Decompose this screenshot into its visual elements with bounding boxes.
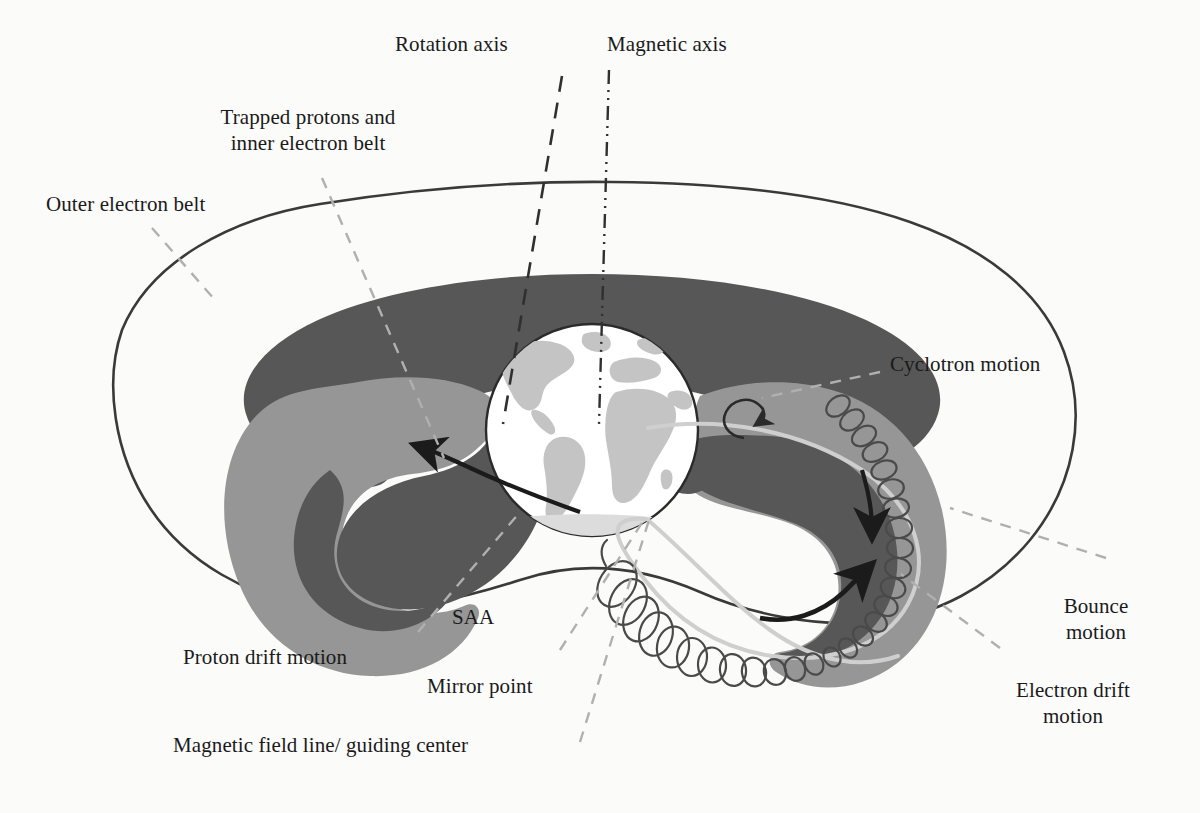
mirror-point-leader	[560, 518, 645, 650]
label-trapped-protons-line2: inner electron belt	[168, 131, 448, 156]
label-proton-drift-motion: Proton drift motion	[183, 645, 347, 670]
label-bounce-motion-line1: Bounce	[1036, 594, 1156, 619]
helix-loop	[676, 637, 707, 676]
helix-tail	[602, 540, 607, 566]
label-cyclotron-motion: Cyclotron motion	[890, 352, 1040, 377]
label-electron-drift-line2: motion	[978, 704, 1168, 729]
label-electron-drift-line1: Electron drift	[978, 678, 1168, 703]
label-bounce-motion-line2: motion	[1036, 620, 1156, 645]
label-mirror-point: Mirror point	[427, 674, 533, 699]
label-rotation-axis: Rotation axis	[395, 32, 508, 57]
radiation-belt-diagram: Rotation axis Magnetic axis Trapped prot…	[0, 0, 1200, 813]
label-saa: SAA	[452, 605, 494, 630]
helix-loop	[718, 652, 748, 687]
label-trapped-protons-line1: Trapped protons and	[168, 105, 448, 130]
label-magnetic-field-line: Magnetic field line/ guiding center	[173, 733, 468, 758]
outer-electron-belt-leader	[152, 228, 215, 300]
bounce-motion-leader	[950, 508, 1106, 558]
label-magnetic-axis: Magnetic axis	[607, 32, 727, 57]
helix-loop	[697, 647, 727, 684]
label-outer-electron-belt: Outer electron belt	[46, 192, 205, 217]
